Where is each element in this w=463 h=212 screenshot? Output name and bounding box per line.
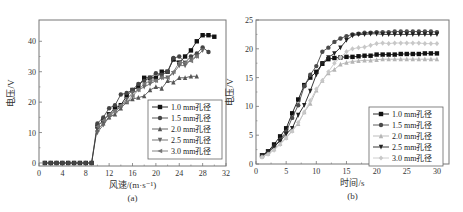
data-point <box>393 40 397 45</box>
data-point <box>78 161 82 165</box>
legend-marker <box>158 105 162 109</box>
y-tick-label: 0 <box>32 159 36 168</box>
data-point <box>374 41 378 46</box>
data-point <box>314 64 318 68</box>
data-point <box>380 52 384 56</box>
x-tick-label: 0 <box>37 169 41 178</box>
y-tick-label: 10 <box>245 102 253 111</box>
data-point <box>206 50 210 54</box>
legend-label: 2.5 mm孔径 <box>392 142 432 152</box>
data-point <box>200 33 204 37</box>
data-point <box>423 51 427 55</box>
y-tick-label: 10 <box>28 129 36 138</box>
data-point <box>399 40 403 45</box>
data-point <box>332 51 336 56</box>
data-point <box>206 33 210 37</box>
legend-label: 1.0 mm孔径 <box>171 102 211 112</box>
y-axis-label: 电压/V <box>5 79 16 107</box>
data-point <box>43 161 47 165</box>
data-point <box>136 82 140 86</box>
data-point <box>386 52 390 56</box>
data-point <box>344 55 348 59</box>
data-point <box>435 41 439 46</box>
legend: 1.0 mm孔径1.5 mm孔径2.0 mm孔径2.5 mm孔径3.0 mm孔径 <box>369 107 443 166</box>
data-point <box>296 103 300 107</box>
chart-panel-a: 048121620242832010203040风速/(m·s⁻¹)电压/V(a… <box>5 20 230 203</box>
data-point <box>435 51 439 55</box>
x-tick-label: 24 <box>175 169 183 178</box>
data-point <box>326 45 330 49</box>
panel-label: (b) <box>347 191 358 201</box>
x-tick-label: 5 <box>284 167 288 176</box>
legend-marker <box>379 123 383 127</box>
y-tick-label: 40 <box>28 37 36 46</box>
data-point <box>154 71 158 75</box>
data-point <box>350 55 354 59</box>
data-point <box>124 91 128 95</box>
x-axis-label: 时间/s <box>340 177 365 188</box>
data-point <box>183 54 187 58</box>
x-tick-label: 16 <box>129 169 137 178</box>
x-tick-label: 4 <box>60 169 64 178</box>
legend-label: 3.0 mm孔径 <box>171 146 211 156</box>
data-point <box>332 40 336 44</box>
x-axis-label: 风速/(m·s⁻¹) <box>109 180 156 190</box>
x-tick-label: 32 <box>222 169 230 178</box>
data-point <box>368 43 372 48</box>
data-point <box>320 49 324 53</box>
legend-label: 1.0 mm孔径 <box>392 109 432 119</box>
x-tick-label: 12 <box>105 169 113 178</box>
data-point <box>48 161 52 165</box>
legend-label: 2.5 mm孔径 <box>171 135 211 145</box>
data-point <box>113 103 117 107</box>
data-point <box>374 52 378 56</box>
y-tick-label: 15 <box>245 74 253 83</box>
data-point <box>195 39 199 43</box>
data-point <box>380 40 384 45</box>
data-point <box>308 73 312 77</box>
legend-label: 3.0 mm孔径 <box>392 153 432 163</box>
x-tick-label: 20 <box>373 167 381 176</box>
data-point <box>212 35 216 39</box>
data-point <box>338 36 342 40</box>
y-tick-label: 25 <box>245 16 253 25</box>
data-point <box>148 87 152 92</box>
data-point <box>66 161 70 165</box>
data-point <box>332 56 336 60</box>
data-point <box>417 52 421 56</box>
data-point <box>84 161 88 165</box>
data-point <box>107 106 111 110</box>
data-point <box>54 161 58 165</box>
data-point <box>290 116 294 120</box>
chart-panel-b: 0510152025300510152025时间/s电压/V(b)1.0 mm孔… <box>224 16 449 201</box>
legend-label: 1.5 mm孔径 <box>171 113 211 123</box>
data-point <box>356 54 360 58</box>
data-point <box>411 52 415 56</box>
y-tick-label: 20 <box>245 45 253 54</box>
y-tick-label: 5 <box>249 131 253 140</box>
data-point <box>356 45 360 50</box>
legend-label: 2.0 mm孔径 <box>171 124 211 134</box>
x-tick-label: 8 <box>84 169 88 178</box>
x-tick-label: 0 <box>254 167 258 176</box>
x-tick-label: 25 <box>403 167 411 176</box>
y-tick-label: 30 <box>28 68 36 77</box>
legend-marker <box>379 112 383 116</box>
data-point <box>362 44 366 49</box>
data-point <box>302 84 306 88</box>
data-point <box>429 41 433 46</box>
data-point <box>189 48 193 52</box>
data-point <box>429 51 433 55</box>
data-point <box>399 52 403 56</box>
legend: 1.0 mm孔径1.5 mm孔径2.0 mm孔径2.5 mm孔径3.0 mm孔径 <box>148 100 222 159</box>
data-point <box>350 46 354 51</box>
data-point <box>411 40 415 45</box>
data-point <box>344 34 348 38</box>
x-tick-label: 20 <box>152 169 160 178</box>
data-point <box>308 98 312 103</box>
data-point <box>393 52 397 56</box>
data-point <box>423 41 427 46</box>
data-point <box>308 89 312 94</box>
x-tick-label: 10 <box>312 167 320 176</box>
figure: 048121620242832010203040风速/(m·s⁻¹)电压/V(a… <box>0 0 463 212</box>
